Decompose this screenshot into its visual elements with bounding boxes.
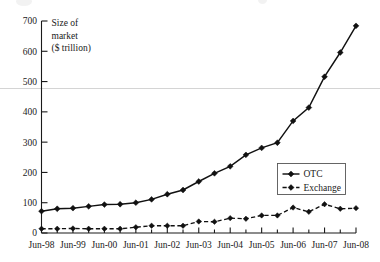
legend-label: Exchange	[304, 183, 341, 193]
y-tick-label: 200	[23, 168, 38, 178]
y-axis-title-line: Size of	[52, 18, 79, 28]
x-tick-label: Jun-01	[123, 240, 149, 250]
chart-figure: 0100200300400500600700 Jun-98Jun-99Jun-0…	[0, 0, 380, 262]
x-tick-label: Jun-03	[186, 240, 212, 250]
x-tick-label: Jun-00	[91, 240, 117, 250]
y-axis-title-line: market	[52, 31, 79, 41]
legend-label: OTC	[304, 169, 323, 179]
chart-legend[interactable]: OTCExchange	[278, 164, 346, 195]
y-tick-label: 300	[23, 138, 38, 148]
x-tick-label: Jun-98	[29, 240, 55, 250]
x-tick-label: Jun-04	[217, 240, 243, 250]
y-tick-label: 400	[23, 107, 38, 117]
x-tick-label: Jun-05	[249, 240, 275, 250]
y-tick-label: 500	[23, 77, 38, 87]
x-tick-label: Jun-08	[343, 240, 369, 250]
y-tick-label: 700	[23, 16, 38, 26]
x-tick-label: Jun-06	[280, 240, 306, 250]
x-tick-label: Jun-99	[60, 240, 86, 250]
x-tick-label: Jun-02	[154, 240, 180, 250]
x-axis-tick-labels: Jun-98Jun-99Jun-00Jun-01Jun-02Jun-03Jun-…	[29, 240, 370, 250]
derivatives-market-size-line-chart: 0100200300400500600700 Jun-98Jun-99Jun-0…	[0, 0, 380, 262]
x-tick-label: Jun-07	[312, 240, 338, 250]
y-tick-label: 0	[32, 228, 37, 238]
y-axis-title-line: ($ trillion)	[52, 43, 91, 54]
y-tick-label: 600	[23, 47, 38, 57]
y-tick-label: 100	[23, 198, 38, 208]
